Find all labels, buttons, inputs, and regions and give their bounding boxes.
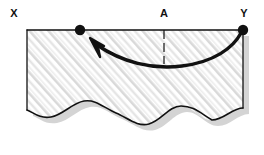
label-y: Y <box>240 7 248 19</box>
label-a: A <box>160 7 168 19</box>
right-point-dot <box>238 25 248 35</box>
sheet-body <box>20 24 252 130</box>
label-x: X <box>10 7 18 19</box>
left-point-dot <box>75 25 85 35</box>
sheet-hatching <box>20 24 252 130</box>
diagram-svg: X A Y <box>0 0 264 155</box>
figure-canvas: X A Y <box>0 0 264 155</box>
